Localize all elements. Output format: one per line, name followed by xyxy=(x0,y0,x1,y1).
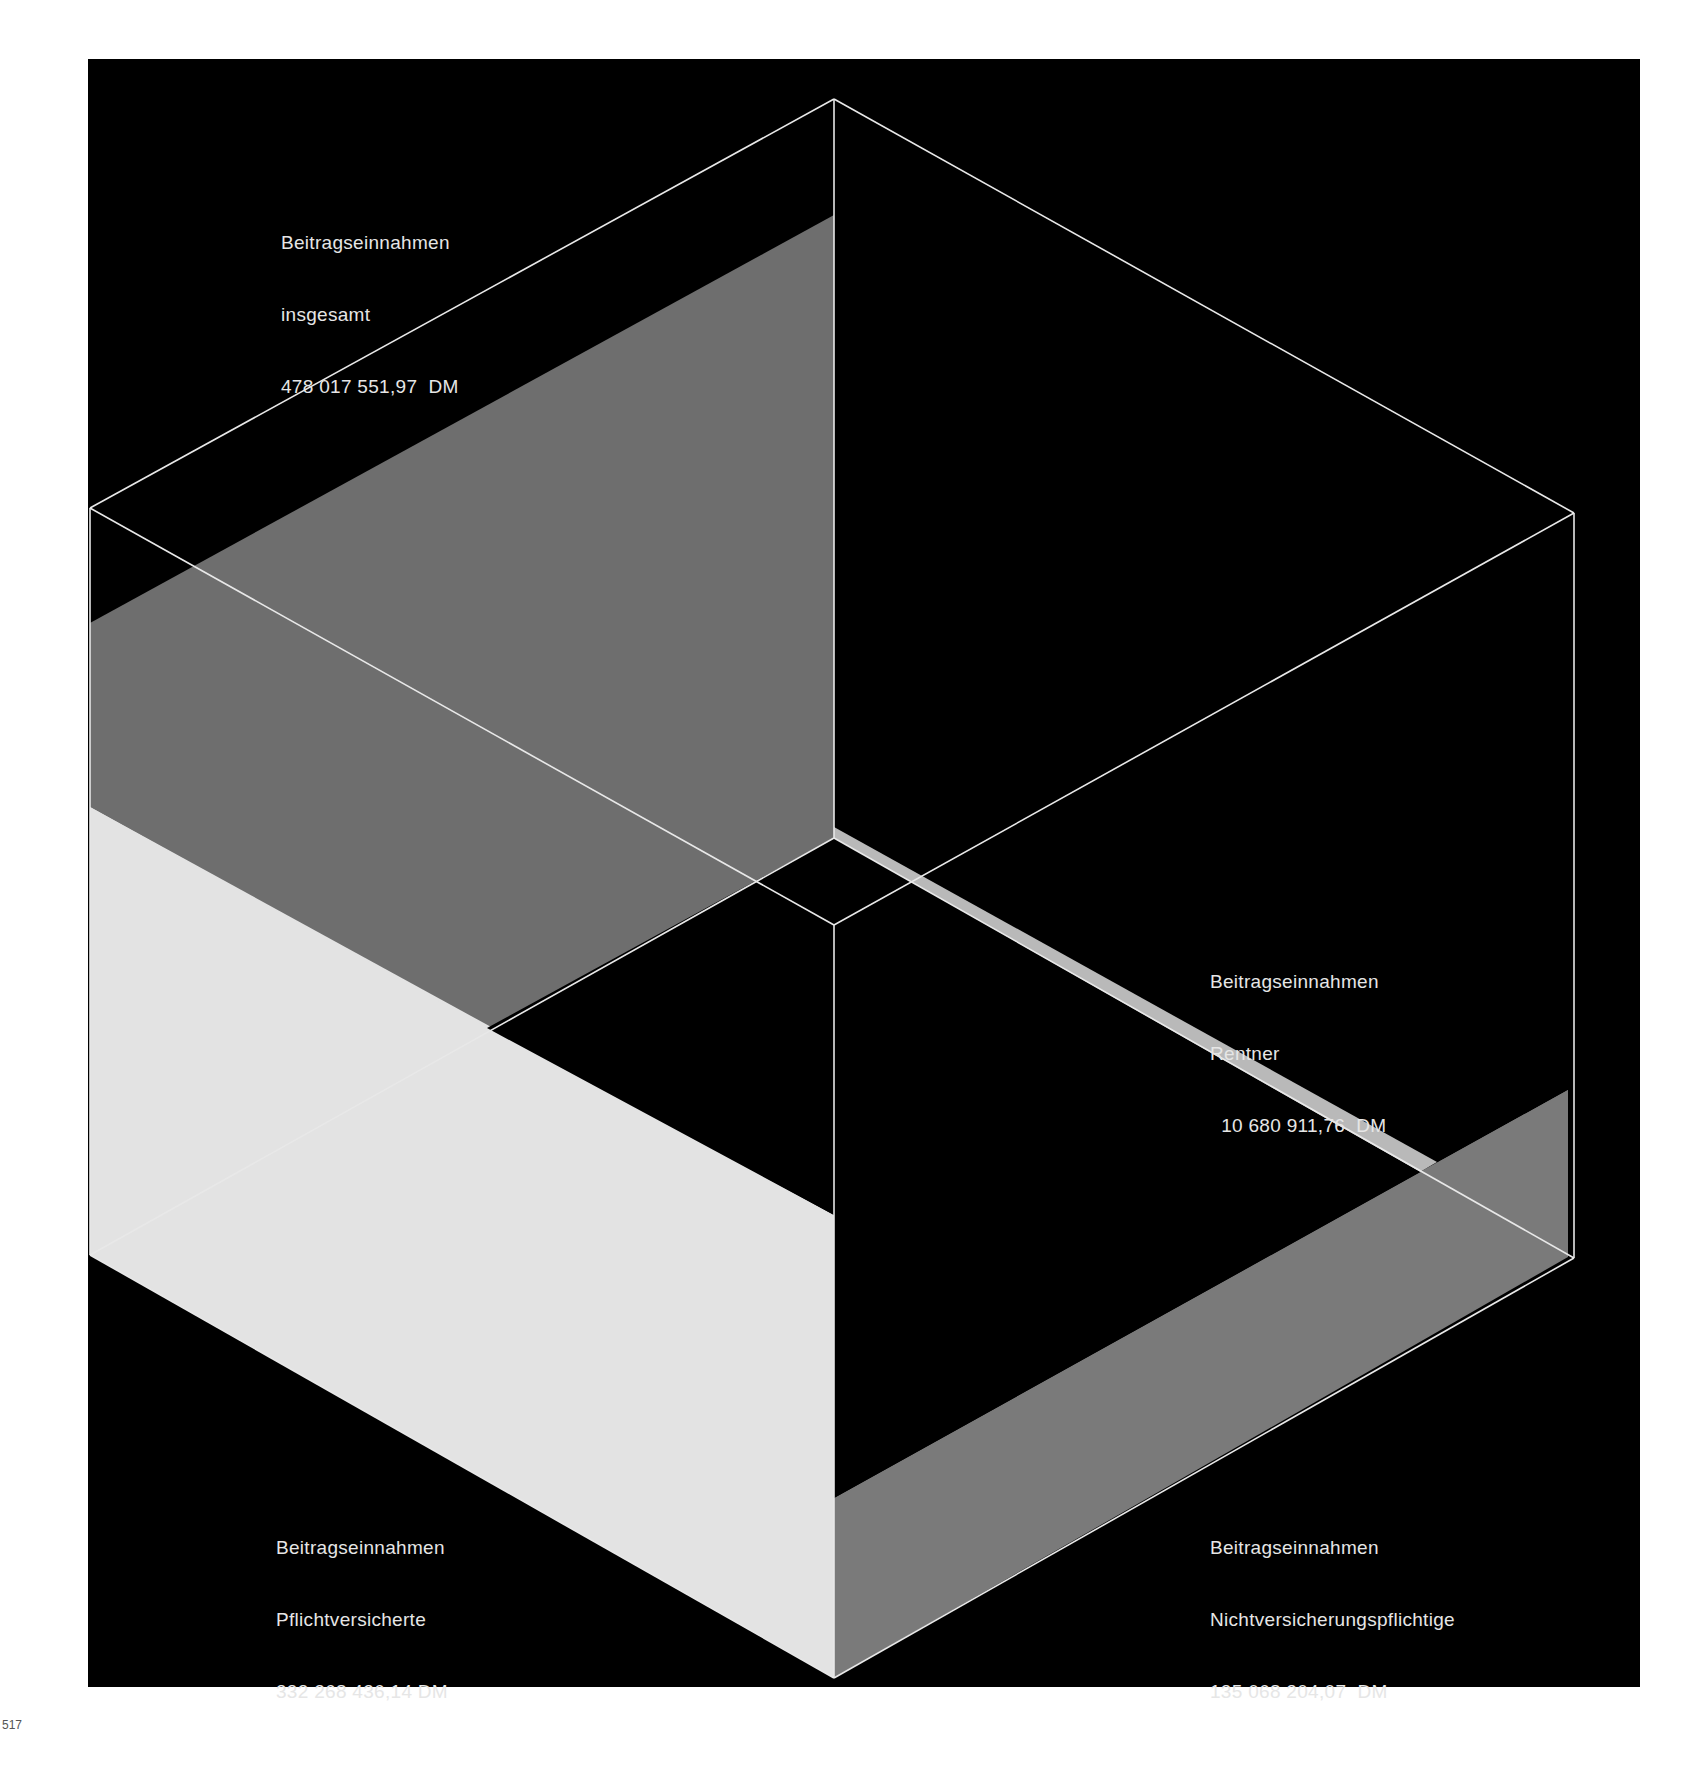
page-number: 517 xyxy=(2,1718,22,1732)
label-nicht-value: 135 068 204,07 DM xyxy=(1210,1680,1455,1704)
label-nicht: Beitragseinnahmen Nichtversicherungspfli… xyxy=(1210,1488,1455,1728)
label-pflicht-value: 332 268 436,14 DM xyxy=(276,1680,448,1704)
label-rentner-line1: Beitragseinnahmen xyxy=(1210,970,1386,994)
label-rentner: Beitragseinnahmen Rentner 10 680 911,76 … xyxy=(1210,922,1386,1162)
label-total-line2: insgesamt xyxy=(281,303,459,327)
label-pflicht-line1: Beitragseinnahmen xyxy=(276,1536,448,1560)
label-pflicht: Beitragseinnahmen Pflichtversicherte 332… xyxy=(276,1488,448,1728)
label-nicht-line2: Nichtversicherungspflichtige xyxy=(1210,1608,1455,1632)
label-rentner-value: 10 680 911,76 DM xyxy=(1210,1114,1386,1138)
label-rentner-line2: Rentner xyxy=(1210,1042,1386,1066)
label-total-value: 478 017 551,97 DM xyxy=(281,375,459,399)
label-pflicht-line2: Pflichtversicherte xyxy=(276,1608,448,1632)
label-total-line1: Beitragseinnahmen xyxy=(281,231,459,255)
label-nicht-line1: Beitragseinnahmen xyxy=(1210,1536,1455,1560)
label-total: Beitragseinnahmen insgesamt 478 017 551,… xyxy=(281,183,459,423)
